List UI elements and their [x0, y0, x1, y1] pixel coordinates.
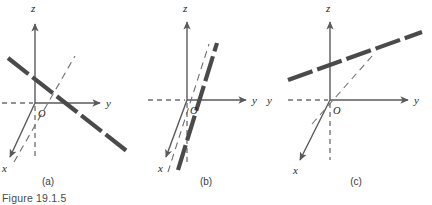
panel-a-z-label: z	[30, 2, 36, 14]
panel-c-origin-label: O	[333, 105, 341, 116]
panel-a-origin-label: O	[38, 108, 46, 119]
panel-a-x-axis	[10, 103, 35, 157]
panel-b-z-label: z	[182, 2, 188, 14]
panel-a-y-label: y	[105, 97, 111, 109]
panel-c-z-label: z	[325, 2, 331, 14]
panel-c-x-label: x	[292, 164, 298, 176]
panel-label-b: (b)	[186, 176, 226, 187]
panel-b-origin-label: O	[190, 105, 198, 116]
panel-a: z y x O	[1, 2, 128, 174]
panel-c-y-label: y	[413, 94, 419, 106]
panel-a-x-label: x	[1, 162, 7, 174]
panel-c-x-axis	[300, 100, 330, 160]
panel-c: z y y x O	[266, 2, 422, 176]
panel-c-y-negative-label: y	[266, 94, 272, 106]
figure-canvas: z y x O z y x O z	[0, 0, 432, 205]
figure-root: z y x O z y x O z	[0, 0, 432, 205]
panel-label-c: (c)	[336, 176, 376, 187]
panel-b-x-label: x	[157, 162, 163, 174]
panel-b-projection-line	[168, 44, 209, 172]
panel-c-main-line	[288, 32, 422, 80]
panel-b: z y x O	[148, 2, 257, 174]
panel-b-y-label: y	[251, 94, 257, 106]
panel-label-a: (a)	[28, 176, 68, 187]
figure-caption: Figure 19.1.5	[2, 192, 66, 205]
